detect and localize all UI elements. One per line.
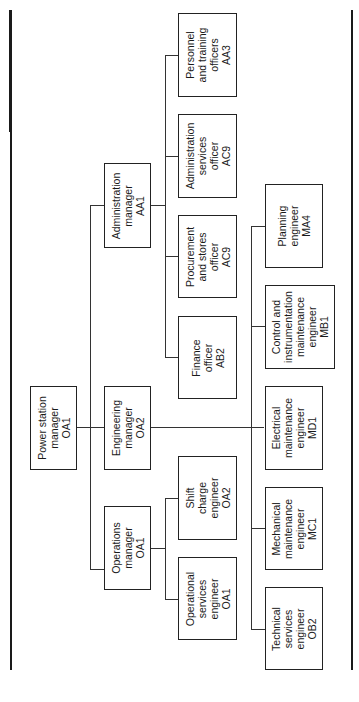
box-engineering-manager: EngineeringmanagerOA2 (104, 386, 151, 470)
box-technical-services: TechnicalservicesengineerOB2 (265, 587, 323, 670)
label: MA4 (300, 206, 312, 247)
box-personnel-training: Personneland trainingofficersAA3 (178, 13, 237, 97)
label: manager (48, 396, 60, 460)
connector-adm-out (151, 205, 165, 206)
label: and training (196, 28, 208, 83)
label: manager (122, 400, 134, 456)
label: AB2 (214, 339, 226, 376)
label: MB1 (318, 291, 330, 363)
label: Personnel (184, 28, 196, 83)
label: Procurement (184, 226, 196, 286)
label: Technical (270, 607, 282, 651)
label: maintenance (282, 498, 294, 558)
label: AC9 (220, 123, 232, 190)
connector-adm-trunk (165, 55, 166, 357)
box-power-station-manager: Power stationmanagerOA1 (30, 386, 77, 470)
label: officer (208, 123, 220, 190)
box-mechanical-maintenance: MechanicalmaintenanceengineerMC1 (265, 487, 323, 570)
label: charge (196, 478, 208, 519)
label: and stores (196, 226, 208, 286)
connector-eng-trunk (251, 226, 252, 630)
label: MD1 (306, 398, 318, 458)
label: MC1 (306, 498, 318, 558)
connector-proc (165, 256, 178, 257)
label: manager (122, 522, 134, 573)
connector-ctrl (251, 326, 265, 327)
connector-shift (165, 498, 178, 499)
label: Administration (184, 123, 196, 190)
label: Operations (110, 522, 122, 573)
connector-eng-out (151, 427, 264, 428)
connector-ops-trunk (165, 498, 166, 599)
label: services (196, 571, 208, 625)
label: Power station (36, 396, 48, 460)
label: Shift (184, 478, 196, 519)
box-finance-officer: FinanceofficerAB2 (178, 316, 237, 399)
label: Mechanical (270, 498, 282, 558)
box-procurement-stores: Procurementand storesofficerAC9 (178, 215, 237, 298)
box-administration-services: AdministrationservicesofficerAC9 (178, 114, 237, 198)
box-operational-services: OperationalservicesengineerOA1 (178, 557, 237, 640)
connector-plan (251, 226, 265, 227)
label: Electrical (270, 398, 282, 458)
label: engineer (294, 607, 306, 651)
box-shift-charge: ShiftchargeengineerOA2 (178, 456, 237, 540)
label: engineer (294, 498, 306, 558)
connector-adm (90, 205, 104, 206)
label: Administration (110, 172, 122, 239)
connector-tech (251, 629, 265, 630)
label: services (196, 123, 208, 190)
label: maintenance (294, 291, 306, 363)
connector-ops (90, 569, 104, 570)
label: OA1 (220, 571, 232, 625)
label: AC9 (220, 226, 232, 286)
label: officers (208, 28, 220, 83)
connector-pers (165, 55, 178, 56)
label: Finance (190, 339, 202, 376)
label: instrumentation (282, 291, 294, 363)
label: Planning (276, 206, 288, 247)
connector-mech (251, 528, 265, 529)
label: maintenance (282, 398, 294, 458)
label: officer (208, 226, 220, 286)
label: OA2 (220, 478, 232, 519)
box-operations-manager: OperationsmanagerOA1 (104, 506, 151, 590)
box-control-instrumentation: Control andinstrumentationmaintenanceeng… (265, 285, 335, 369)
connector-admsvc (165, 156, 178, 157)
label: services (282, 607, 294, 651)
label: AA3 (220, 28, 232, 83)
connector-ops-out (151, 548, 165, 549)
label: engineer (294, 398, 306, 458)
box-planning-engineer: PlanningengineerMA4 (265, 184, 323, 268)
connector-main-trunk (90, 205, 91, 570)
label: engineer (306, 291, 318, 363)
label: Operational (184, 571, 196, 625)
label: OB2 (306, 607, 318, 651)
connector-opsvc (165, 599, 178, 600)
label: manager (122, 172, 134, 239)
label: OA2 (134, 400, 146, 456)
label: OA1 (134, 522, 146, 573)
box-administration-manager: AdministrationmanagerAA1 (104, 163, 151, 248)
label: officer (202, 339, 214, 376)
label: Engineering (110, 400, 122, 456)
label: OA1 (60, 396, 72, 460)
label: engineer (208, 571, 220, 625)
connector-fin (165, 357, 178, 358)
label: engineer (208, 478, 220, 519)
label: engineer (288, 206, 300, 247)
label: Control and (270, 291, 282, 363)
box-electrical-maintenance: ElectricalmaintenanceengineerMD1 (265, 386, 323, 470)
left-rule-main (10, 10, 12, 670)
right-rule-main (351, 10, 353, 670)
label: AA1 (134, 172, 146, 239)
